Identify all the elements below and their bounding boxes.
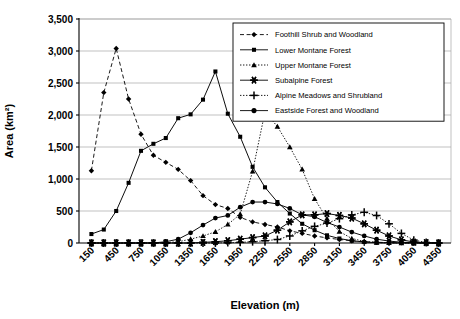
marker-square bbox=[325, 233, 329, 237]
x-axis-title: Elevation (m) bbox=[230, 299, 299, 311]
marker-triangle bbox=[312, 196, 318, 201]
x-tick-label: 1950 bbox=[222, 244, 246, 268]
data-point bbox=[436, 241, 441, 246]
marker-circle bbox=[436, 241, 441, 246]
data-point bbox=[312, 196, 318, 201]
data-point bbox=[176, 237, 181, 242]
marker-square bbox=[189, 112, 193, 116]
legend-label: Lower Montane Forest bbox=[275, 46, 352, 55]
marker-diamond bbox=[250, 219, 255, 224]
marker-circle bbox=[349, 230, 354, 235]
data-point bbox=[385, 220, 393, 228]
marker-circle bbox=[362, 234, 367, 239]
marker-square bbox=[89, 232, 93, 236]
data-point bbox=[102, 228, 106, 232]
data-point bbox=[424, 241, 429, 246]
y-tick-label: 500 bbox=[56, 206, 73, 217]
data-point bbox=[126, 241, 131, 246]
data-point bbox=[225, 213, 230, 218]
marker-triangle bbox=[213, 229, 219, 234]
marker-circle bbox=[263, 200, 268, 205]
marker-square bbox=[238, 135, 242, 139]
marker-diamond bbox=[262, 222, 267, 227]
marker-triangle bbox=[237, 211, 243, 216]
x-tick-label: 450 bbox=[102, 244, 122, 264]
marker-square bbox=[226, 112, 230, 116]
data-point bbox=[349, 236, 355, 241]
marker-circle bbox=[399, 240, 404, 245]
data-point bbox=[411, 240, 416, 245]
data-point bbox=[262, 222, 267, 227]
marker-circle bbox=[411, 240, 416, 245]
marker-circle bbox=[89, 241, 94, 246]
data-point bbox=[127, 181, 131, 185]
x-tick-label: 2550 bbox=[271, 244, 295, 268]
data-point bbox=[362, 234, 367, 239]
data-point bbox=[139, 241, 144, 246]
marker-circle bbox=[176, 237, 181, 242]
marker-diamond bbox=[138, 132, 143, 137]
marker-circle bbox=[201, 223, 206, 228]
data-point bbox=[213, 229, 219, 234]
data-point bbox=[263, 185, 267, 189]
marker-diamond bbox=[176, 167, 181, 172]
data-point bbox=[138, 132, 143, 137]
data-point bbox=[139, 149, 143, 153]
data-point bbox=[397, 229, 405, 237]
data-point bbox=[312, 233, 317, 238]
data-point bbox=[151, 241, 156, 246]
data-point bbox=[325, 233, 329, 237]
data-point bbox=[101, 90, 106, 95]
data-point bbox=[251, 165, 255, 169]
data-point bbox=[399, 240, 404, 245]
marker-triangle bbox=[275, 124, 281, 129]
marker-square bbox=[263, 185, 267, 189]
marker-circle bbox=[114, 241, 119, 246]
x-tick-label: 1350 bbox=[172, 244, 196, 268]
y-tick-label: 3,000 bbox=[48, 46, 73, 57]
data-point bbox=[337, 236, 341, 240]
data-point bbox=[275, 202, 280, 207]
data-point bbox=[312, 214, 317, 219]
data-point bbox=[101, 241, 106, 246]
y-axis-ticks: 05001,0001,5002,0002,5003,0003,500 bbox=[48, 14, 79, 249]
marker-circle bbox=[151, 241, 156, 246]
y-tick-label: 2,500 bbox=[48, 78, 73, 89]
legend-label: Upper Montane Forest bbox=[275, 61, 352, 70]
x-tick-label: 3450 bbox=[346, 244, 370, 268]
marker-circle bbox=[250, 200, 255, 205]
marker-square bbox=[288, 212, 292, 216]
marker-diamond bbox=[163, 160, 168, 165]
marker-circle bbox=[238, 205, 243, 210]
marker-circle bbox=[287, 206, 292, 211]
x-axis-ticks: 1504507501050135016501950225025502850315… bbox=[77, 243, 444, 268]
data-point bbox=[213, 202, 218, 207]
marker-circle bbox=[139, 241, 144, 246]
data-point bbox=[300, 222, 304, 226]
marker-diamond bbox=[101, 90, 106, 95]
data-point bbox=[249, 238, 257, 246]
data-point bbox=[151, 153, 156, 158]
marker-diamond bbox=[225, 206, 230, 211]
y-tick-label: 3,500 bbox=[48, 14, 73, 25]
marker-circle bbox=[251, 108, 256, 113]
data-point bbox=[275, 124, 281, 129]
x-tick-label: 4050 bbox=[395, 244, 419, 268]
marker-triangle bbox=[299, 167, 305, 172]
data-point bbox=[298, 227, 306, 235]
data-point bbox=[300, 212, 305, 217]
data-point bbox=[114, 46, 119, 51]
data-point bbox=[373, 212, 381, 220]
legend-marker-square bbox=[252, 48, 256, 52]
marker-triangle bbox=[225, 222, 231, 227]
data-point bbox=[201, 223, 206, 228]
x-tick-label: 2250 bbox=[246, 244, 270, 268]
data-point bbox=[374, 237, 379, 242]
x-tick-label: 1650 bbox=[197, 244, 221, 268]
marker-diamond bbox=[151, 153, 156, 158]
data-point bbox=[164, 136, 168, 140]
legend-label: Subalpine Forest bbox=[275, 76, 333, 85]
y-tick-label: 1,000 bbox=[48, 174, 73, 185]
marker-square bbox=[300, 222, 304, 226]
x-tick-label: 3750 bbox=[370, 244, 394, 268]
